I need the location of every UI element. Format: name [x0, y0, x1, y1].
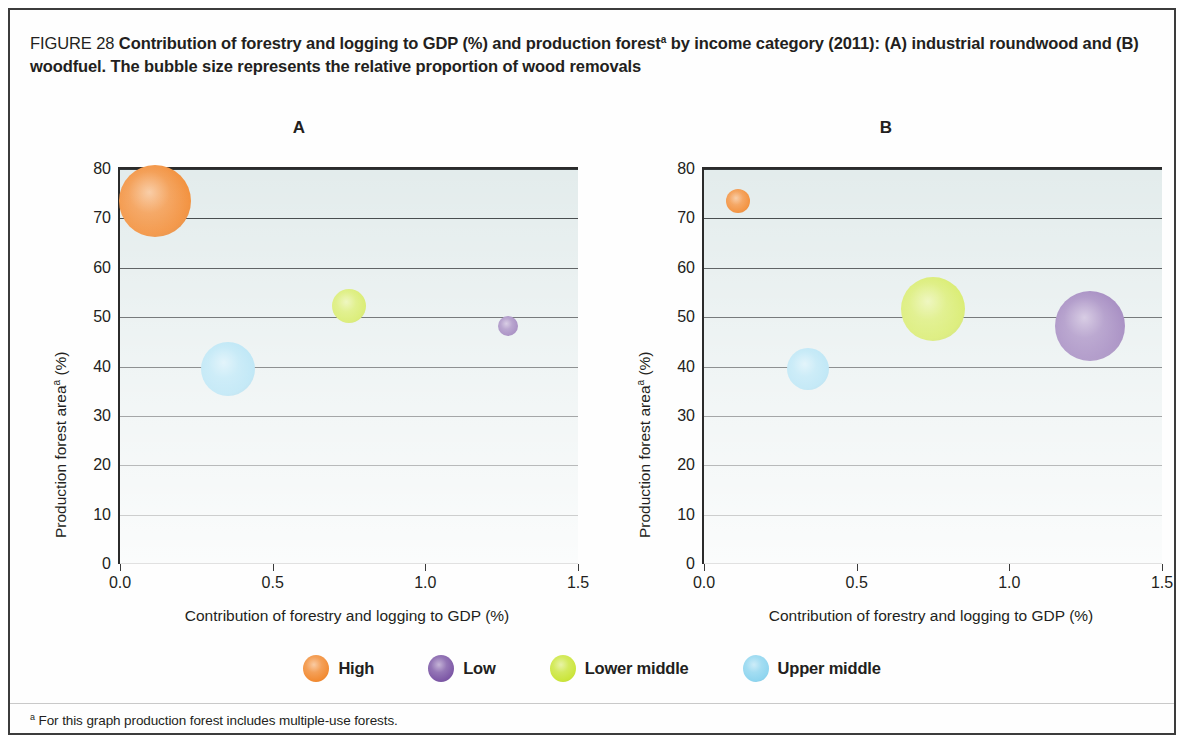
figure-footnote: a For this graph production forest inclu…: [30, 713, 398, 728]
x-axis-tick: [273, 564, 274, 571]
x-axis-tick: [425, 564, 426, 571]
x-axis-tick: [578, 564, 579, 571]
x-axis-tick-label: 0.0: [693, 574, 715, 592]
bubble-low: [498, 316, 518, 336]
gridline: [120, 465, 578, 466]
bubble-upper-middle: [787, 348, 829, 390]
panel-b-plot-area: 010203040506070800.00.51.01.5: [702, 167, 1162, 564]
panel-b-x-axis: [704, 563, 1162, 564]
y-axis-tick-label: 0: [102, 555, 111, 573]
x-axis-tick: [1162, 564, 1163, 571]
y-axis-tick-label: 50: [93, 308, 111, 326]
x-axis-tick-label: 1.0: [414, 574, 436, 592]
x-axis-tick-label: 0.5: [262, 574, 284, 592]
legend-swatch-icon: [303, 655, 329, 682]
x-axis-tick-label: 0.0: [109, 574, 131, 592]
figure-title-line1-cont: by income category (2011):: [666, 34, 880, 52]
panel-b-y-axis-title: Production forest areaa (%): [636, 352, 654, 539]
y-axis-tick-label: 10: [677, 506, 695, 524]
gridline: [704, 515, 1162, 516]
footnote-divider: [10, 703, 1174, 704]
gridline: [120, 218, 578, 219]
y-axis-tick-label: 60: [677, 259, 695, 277]
y-axis-tick-label: 60: [93, 259, 111, 277]
y-axis-tick-label: 50: [677, 308, 695, 326]
legend-swatch-icon: [428, 655, 454, 682]
panel-a-y-axis-title: Production forest areaa (%): [52, 352, 70, 539]
x-axis-tick-label: 1.0: [998, 574, 1020, 592]
panel-a-plot-area: 010203040506070800.00.51.01.5: [118, 167, 578, 564]
x-axis-tick: [1009, 564, 1010, 571]
x-axis-tick-label: 1.5: [1151, 574, 1173, 592]
gridline: [120, 367, 578, 368]
legend-item-upper-middle: Upper middle: [743, 655, 881, 682]
bubble-lower-middle: [332, 289, 366, 323]
y-axis-tick-label: 30: [93, 407, 111, 425]
panel-a-x-axis-title: Contribution of forestry and logging to …: [118, 607, 576, 625]
x-axis-tick: [857, 564, 858, 571]
y-axis-tick-label: 70: [677, 209, 695, 227]
panel-a-title: A: [14, 118, 584, 138]
y-axis-tick-label: 20: [93, 456, 111, 474]
y-axis-tick-label: 80: [93, 160, 111, 178]
gridline: [120, 268, 578, 269]
panel-b-x-axis-title: Contribution of forestry and logging to …: [702, 607, 1160, 625]
y-axis-tick-label: 30: [677, 407, 695, 425]
y-axis-tick-label: 0: [686, 555, 695, 573]
legend-label: Low: [463, 659, 495, 678]
gridline: [704, 465, 1162, 466]
y-axis-tick-label: 40: [677, 358, 695, 376]
legend-item-high: High: [303, 655, 374, 682]
y-axis-tick-label: 80: [677, 160, 695, 178]
figure-frame: FIGURE 28 Contribution of forestry and l…: [8, 8, 1176, 735]
figure-number: FIGURE 28: [30, 34, 114, 52]
bubble-lower-middle: [901, 277, 965, 341]
x-axis-tick-label: 1.5: [567, 574, 589, 592]
gridline: [120, 416, 578, 417]
gridline: [120, 169, 578, 170]
legend-label: Upper middle: [778, 659, 881, 678]
legend-label: Lower middle: [585, 659, 689, 678]
legend-label: High: [338, 659, 374, 678]
x-axis-tick-label: 0.5: [846, 574, 868, 592]
x-axis-tick: [704, 564, 705, 571]
y-axis-tick-label: 40: [93, 358, 111, 376]
bubble-high: [119, 165, 191, 237]
chart-legend: HighLowLower middleUpper middle: [10, 655, 1174, 682]
footnote-text: For this graph production forest include…: [35, 713, 398, 728]
bubble-high: [726, 189, 750, 213]
figure-caption: FIGURE 28 Contribution of forestry and l…: [30, 32, 1154, 78]
gridline: [704, 367, 1162, 368]
gridline: [704, 268, 1162, 269]
figure-title-line1: Contribution of forestry and logging to …: [119, 34, 661, 52]
legend-swatch-icon: [743, 655, 769, 682]
y-axis-tick-label: 20: [677, 456, 695, 474]
gridline: [704, 169, 1162, 170]
panel-b-title: B: [606, 118, 1166, 138]
y-axis-tick-label: 10: [93, 506, 111, 524]
legend-item-low: Low: [428, 655, 495, 682]
bubble-low: [1055, 291, 1125, 361]
gridline: [120, 515, 578, 516]
y-axis-tick-label: 70: [93, 209, 111, 227]
panel-a-y-axis-title-text: Production forest area: [52, 385, 69, 538]
panel-a-x-axis: [120, 563, 578, 564]
gridline: [704, 218, 1162, 219]
gridline: [704, 416, 1162, 417]
legend-item-lower-middle: Lower middle: [550, 655, 689, 682]
panel-b-y-axis-title-text: Production forest area: [636, 385, 653, 538]
bubble-upper-middle: [201, 342, 255, 396]
x-axis-tick: [120, 564, 121, 571]
legend-swatch-icon: [550, 655, 576, 682]
